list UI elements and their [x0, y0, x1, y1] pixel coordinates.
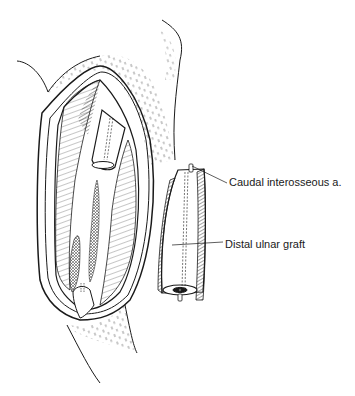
bone-stump-proximal [92, 110, 125, 170]
vessel-stipple [70, 180, 100, 292]
bone-stump-distal [73, 283, 94, 318]
surgical-illustration [0, 0, 355, 396]
distal-ulnar-graft-label: Distal ulnar graft [225, 238, 305, 250]
caudal-interosseous-artery-label: Caudal interosseous a. [229, 176, 342, 188]
ulnar-graft [158, 164, 205, 301]
